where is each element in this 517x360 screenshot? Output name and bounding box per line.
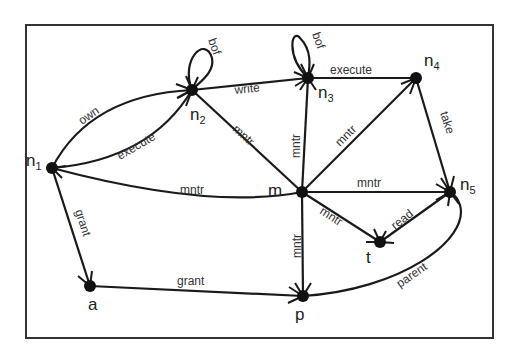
node-n5: n5 bbox=[444, 175, 476, 198]
edge-label-grant-2: grant bbox=[177, 274, 205, 288]
edge-label-execute-1: execute bbox=[115, 129, 159, 162]
edge-label-mntr-n3: mntr bbox=[289, 134, 303, 158]
edge-n2-n3-write: write bbox=[192, 72, 308, 97]
node-label-a: a bbox=[88, 295, 98, 314]
edge-n4-n5-take: take bbox=[416, 78, 458, 192]
edge-n1-a-grant: grant bbox=[52, 168, 94, 286]
graph-diagram: own execute bof write bof execute mntr m… bbox=[0, 0, 517, 360]
edge-label-own: own bbox=[76, 103, 102, 127]
edge-m-t-mntr: mntr bbox=[302, 192, 380, 242]
edge-label-bof-1: bof bbox=[205, 36, 224, 57]
edge-label-read: read bbox=[388, 207, 416, 233]
edge-label-bof-2: bof bbox=[309, 30, 328, 51]
edge-label-write: write bbox=[233, 80, 261, 97]
edge-label-take: take bbox=[437, 110, 457, 136]
edge-m-n5-mntr: mntr bbox=[302, 176, 450, 200]
edge-label-execute-2: execute bbox=[330, 63, 372, 77]
node-n4: n4 bbox=[410, 51, 440, 84]
node-label-n1: n1 bbox=[26, 151, 42, 172]
edge-m-n2-mntr: mntr bbox=[192, 90, 302, 192]
edge-a-p-grant: grant bbox=[90, 274, 303, 303]
node-t: t bbox=[366, 236, 386, 267]
node-a: a bbox=[84, 280, 98, 314]
edge-n2-bof-loop: bof bbox=[186, 36, 224, 90]
node-label-t: t bbox=[366, 248, 371, 267]
edge-m-n1-mntr: mntr bbox=[52, 166, 302, 197]
node-label-m: m bbox=[268, 181, 282, 200]
node-label-n2: n2 bbox=[190, 105, 206, 126]
node-label-n3: n3 bbox=[318, 83, 334, 104]
node-n2: n2 bbox=[186, 84, 206, 126]
edge-label-mntr-n1: mntr bbox=[180, 183, 204, 197]
edge-label-mntr-n5: mntr bbox=[357, 176, 381, 190]
edge-label-mntr-p: mntr bbox=[290, 234, 304, 258]
node-p: p bbox=[295, 290, 309, 324]
edge-label-mntr-n4: mntr bbox=[332, 122, 359, 149]
diagram-frame bbox=[26, 25, 493, 338]
node-n1: n1 bbox=[26, 151, 58, 174]
edge-label-mntr-n2: mntr bbox=[230, 122, 257, 148]
edge-label-grant-1: grant bbox=[72, 208, 94, 239]
edge-n5-t-read: read bbox=[380, 192, 450, 243]
edge-n3-bof-loop: bof bbox=[292, 30, 328, 78]
edge-label-parent: parent bbox=[394, 259, 430, 290]
node-label-p: p bbox=[295, 305, 304, 324]
edge-n1-n2-execute: execute bbox=[52, 90, 192, 168]
edge-m-p-mntr: mntr bbox=[290, 192, 311, 296]
edge-m-n3-mntr: mntr bbox=[289, 78, 316, 192]
edge-n3-n4-execute: execute bbox=[308, 63, 416, 78]
node-label-n5: n5 bbox=[460, 175, 476, 196]
node-label-n4: n4 bbox=[424, 51, 440, 72]
edge-label-mntr-t: mntr bbox=[317, 204, 345, 229]
